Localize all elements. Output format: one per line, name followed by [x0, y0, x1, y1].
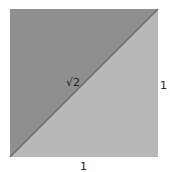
diagonal-length-label: √2 [66, 77, 80, 88]
right-side-length-label: 1 [160, 80, 167, 91]
bottom-side-length-label: 1 [80, 161, 87, 172]
square-diagram [0, 0, 170, 172]
